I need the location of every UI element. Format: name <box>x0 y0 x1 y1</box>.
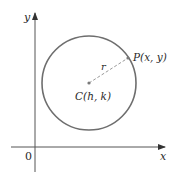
radius-line <box>89 58 128 83</box>
point-p <box>126 56 129 59</box>
radius-label: r <box>101 61 107 72</box>
circle-diagram: y x 0 r C(h, k) P(x, y) <box>0 0 179 182</box>
x-axis-label: x <box>160 150 167 163</box>
origin-label: 0 <box>25 150 32 163</box>
center-label: C(h, k) <box>75 90 111 102</box>
center-point <box>87 81 90 84</box>
point-label: P(x, y) <box>132 51 167 63</box>
y-axis-label: y <box>23 11 31 24</box>
diagram-canvas: y x 0 r C(h, k) P(x, y) <box>0 0 179 182</box>
